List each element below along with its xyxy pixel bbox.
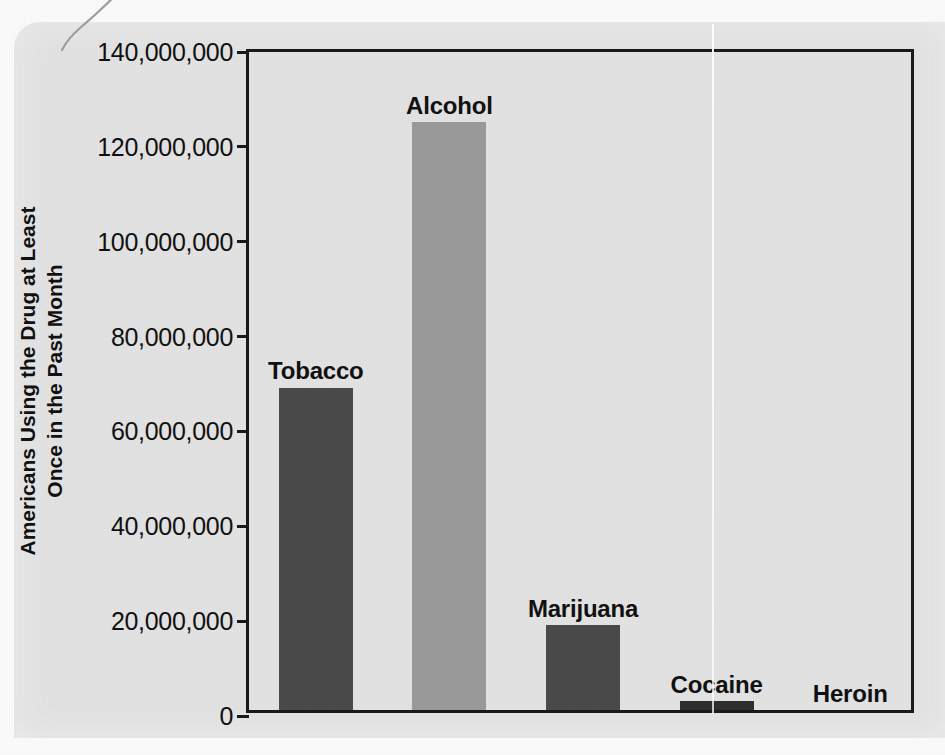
- bar: [546, 625, 620, 710]
- y-axis-title: Americans Using the Drug at Least Once i…: [14, 49, 70, 713]
- y-axis-tick-label: 0: [219, 702, 233, 731]
- y-axis-tick-label: 100,000,000: [97, 227, 233, 256]
- y-axis-tick: [237, 430, 249, 433]
- y-axis-tick-label: 60,000,000: [111, 417, 233, 446]
- y-axis-tick: [237, 525, 249, 528]
- y-axis-tick-label: 40,000,000: [111, 512, 233, 541]
- y-axis-tick: [237, 620, 249, 623]
- y-axis-tick: [237, 335, 249, 338]
- y-axis-tick: [237, 715, 249, 718]
- y-axis-title-line-2: Once in the Past Month: [42, 207, 69, 556]
- bar-label: Marijuana: [528, 595, 638, 623]
- scanned-page: Americans Using the Drug at Least Once i…: [0, 0, 945, 755]
- y-axis-tick-label: 120,000,000: [97, 132, 233, 161]
- bar-label: Heroin: [813, 680, 888, 708]
- bar-label: Tobacco: [268, 357, 364, 385]
- bar-label: Alcohol: [406, 92, 493, 120]
- plot-area: 020,000,00040,000,00060,000,00080,000,00…: [246, 49, 914, 713]
- y-axis-title-line-1: Americans Using the Drug at Least: [15, 207, 42, 556]
- y-axis-tick-label: 20,000,000: [111, 607, 233, 636]
- y-axis-tick: [237, 51, 249, 54]
- bar: [680, 701, 754, 710]
- y-axis-tick: [237, 240, 249, 243]
- y-axis-tick-label: 80,000,000: [111, 322, 233, 351]
- bar-label: Cocaine: [671, 671, 763, 699]
- bar: [279, 388, 353, 711]
- y-axis-tick: [237, 145, 249, 148]
- y-axis-tick-label: 140,000,000: [97, 38, 233, 67]
- bar: [412, 122, 486, 710]
